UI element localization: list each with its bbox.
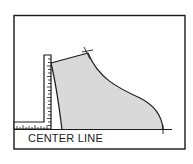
center-line-label: CENTER LINE <box>28 131 103 145</box>
